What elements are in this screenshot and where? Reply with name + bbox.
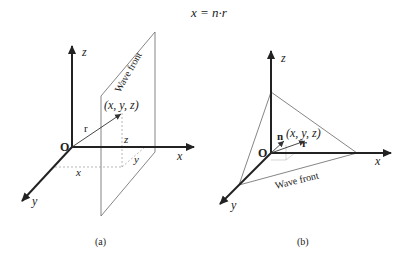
origin-label: O xyxy=(60,140,69,154)
panel-a: z x y O r (x, y, z) z x y Wave front (a) xyxy=(22,32,194,248)
z-projection-label: z xyxy=(123,133,129,145)
normal-vector-n xyxy=(271,141,284,153)
panel-b: z x y O n r (x, y, z) Wave front (b) xyxy=(220,51,391,248)
x-axis-label: x xyxy=(176,149,183,163)
z-axis-label: z xyxy=(280,51,286,65)
point-label: (x, y, z) xyxy=(286,126,321,140)
vector-r-label: r xyxy=(84,122,88,134)
y-axis-label: y xyxy=(31,194,38,208)
wave-front-label: Wave front xyxy=(112,50,144,94)
y-axis xyxy=(22,147,72,201)
wave-front-label: Wave front xyxy=(274,169,320,190)
normal-n-label: n xyxy=(277,130,283,142)
caption-a: (a) xyxy=(95,236,106,248)
y-axis-label: y xyxy=(230,198,237,212)
origin-label: O xyxy=(258,146,267,160)
x-axis-label: x xyxy=(374,154,381,168)
caption-b: (b) xyxy=(297,236,309,248)
position-vector-r xyxy=(271,141,305,153)
x-projection-label: x xyxy=(75,166,81,178)
equation: x = n·r xyxy=(190,5,228,20)
y-projection-label: y xyxy=(133,153,139,165)
point-label: (x, y, z) xyxy=(104,98,139,112)
wavefront-diagram: x = n·r z x y O r (x, y, z) z x y Wave f… xyxy=(0,0,418,256)
z-axis-label: z xyxy=(81,45,87,59)
position-vector-r xyxy=(72,114,121,147)
